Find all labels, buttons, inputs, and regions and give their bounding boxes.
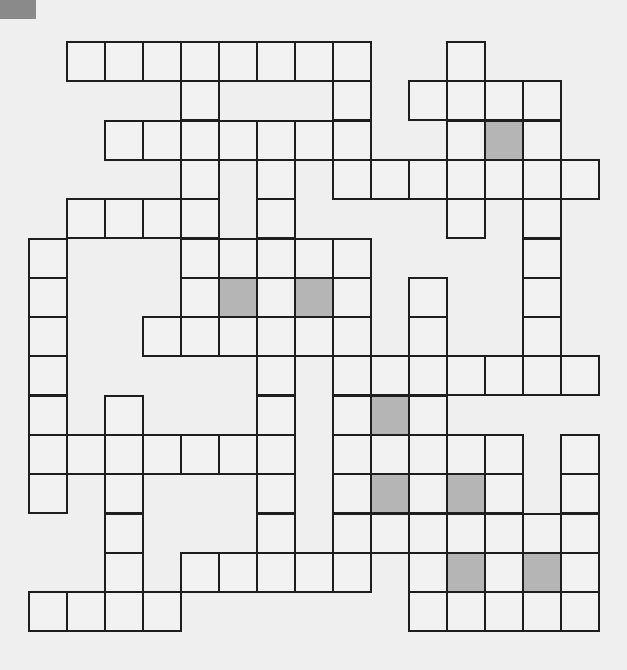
grid-cell[interactable]	[408, 434, 448, 475]
grid-cell[interactable]	[28, 355, 68, 396]
grid-cell[interactable]	[256, 355, 296, 396]
grid-cell[interactable]	[66, 434, 106, 475]
grid-cell[interactable]	[408, 395, 448, 436]
grid-cell[interactable]	[142, 198, 182, 239]
grid-cell[interactable]	[104, 395, 144, 436]
grid-cell[interactable]	[332, 395, 372, 436]
grid-cell[interactable]	[446, 41, 486, 82]
grid-cell[interactable]	[180, 277, 220, 318]
grid-cell[interactable]	[332, 434, 372, 475]
grid-cell[interactable]	[104, 513, 144, 554]
grid-cell[interactable]	[408, 80, 448, 121]
grid-cell[interactable]	[446, 80, 486, 121]
grid-cell[interactable]	[180, 316, 220, 357]
grid-cell[interactable]	[560, 434, 600, 475]
grid-cell[interactable]	[218, 238, 258, 279]
grid-cell[interactable]	[560, 473, 600, 514]
grid-cell[interactable]	[104, 552, 144, 593]
grid-cell[interactable]	[370, 355, 410, 396]
grid-cell[interactable]	[256, 198, 296, 239]
grid-cell[interactable]	[522, 591, 562, 632]
grid-cell[interactable]	[408, 473, 448, 514]
grid-cell[interactable]	[294, 120, 334, 161]
grid-cell[interactable]	[104, 434, 144, 475]
grid-cell[interactable]	[408, 513, 448, 554]
grid-cell[interactable]	[446, 355, 486, 396]
grid-cell[interactable]	[332, 355, 372, 396]
grid-cell[interactable]	[142, 120, 182, 161]
grid-cell[interactable]	[408, 552, 448, 593]
grid-cell[interactable]	[332, 513, 372, 554]
grid-cell[interactable]	[180, 120, 220, 161]
grid-cell[interactable]	[294, 41, 334, 82]
grid-cell[interactable]	[66, 41, 106, 82]
grid-cell[interactable]	[560, 591, 600, 632]
grid-cell[interactable]	[332, 238, 372, 279]
grid-cell[interactable]	[104, 120, 144, 161]
grid-cell[interactable]	[332, 277, 372, 318]
grid-cell[interactable]	[256, 41, 296, 82]
grid-cell[interactable]	[560, 552, 600, 593]
grid-cell[interactable]	[256, 434, 296, 475]
grid-cell[interactable]	[218, 41, 258, 82]
grid-cell[interactable]	[332, 41, 372, 82]
grid-cell[interactable]	[522, 120, 562, 161]
grid-cell[interactable]	[484, 591, 524, 632]
grid-cell[interactable]	[104, 473, 144, 514]
grid-cell[interactable]	[28, 473, 68, 514]
grid-cell[interactable]	[180, 41, 220, 82]
grid-cell[interactable]	[370, 159, 410, 200]
grid-cell[interactable]	[256, 473, 296, 514]
grid-cell[interactable]	[28, 238, 68, 279]
grid-cell[interactable]	[256, 120, 296, 161]
grid-cell[interactable]	[522, 238, 562, 279]
grid-cell[interactable]	[484, 159, 524, 200]
grid-cell[interactable]	[28, 395, 68, 436]
grid-cell[interactable]	[104, 198, 144, 239]
grid-cell[interactable]	[256, 159, 296, 200]
grid-cell[interactable]	[142, 591, 182, 632]
grid-cell[interactable]	[66, 198, 106, 239]
grid-cell[interactable]	[408, 159, 448, 200]
grid-cell[interactable]	[370, 434, 410, 475]
grid-cell[interactable]	[256, 238, 296, 279]
grid-cell[interactable]	[560, 159, 600, 200]
grid-cell[interactable]	[218, 434, 258, 475]
grid-cell[interactable]	[522, 355, 562, 396]
grid-cell[interactable]	[294, 316, 334, 357]
grid-cell[interactable]	[332, 80, 372, 121]
grid-cell[interactable]	[522, 316, 562, 357]
grid-cell[interactable]	[446, 591, 486, 632]
grid-cell[interactable]	[408, 316, 448, 357]
grid-cell[interactable]	[218, 552, 258, 593]
grid-cell[interactable]	[446, 159, 486, 200]
grid-cell[interactable]	[218, 120, 258, 161]
grid-cell[interactable]	[142, 41, 182, 82]
grid-cell[interactable]	[522, 159, 562, 200]
grid-cell[interactable]	[332, 159, 372, 200]
grid-cell[interactable]	[332, 120, 372, 161]
grid-cell[interactable]	[104, 591, 144, 632]
grid-cell[interactable]	[484, 80, 524, 121]
grid-cell[interactable]	[180, 198, 220, 239]
grid-cell[interactable]	[66, 591, 106, 632]
grid-cell[interactable]	[560, 513, 600, 554]
grid-cell[interactable]	[408, 277, 448, 318]
grid-cell[interactable]	[28, 434, 68, 475]
grid-cell[interactable]	[180, 159, 220, 200]
grid-cell[interactable]	[484, 434, 524, 475]
grid-cell[interactable]	[522, 277, 562, 318]
grid-cell[interactable]	[332, 473, 372, 514]
grid-cell[interactable]	[294, 238, 334, 279]
grid-cell[interactable]	[332, 316, 372, 357]
grid-cell[interactable]	[484, 552, 524, 593]
grid-cell[interactable]	[332, 552, 372, 593]
grid-cell[interactable]	[370, 513, 410, 554]
grid-cell[interactable]	[522, 198, 562, 239]
grid-cell[interactable]	[142, 316, 182, 357]
grid-cell[interactable]	[256, 316, 296, 357]
grid-cell[interactable]	[28, 316, 68, 357]
grid-cell[interactable]	[180, 434, 220, 475]
grid-cell[interactable]	[484, 355, 524, 396]
grid-cell[interactable]	[446, 434, 486, 475]
